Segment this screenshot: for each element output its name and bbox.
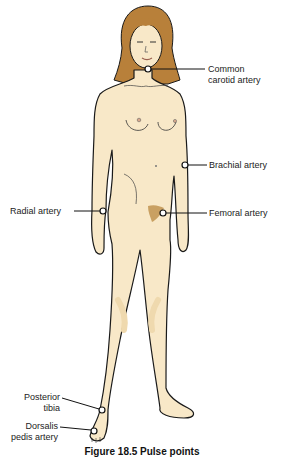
label-line: tibia — [14, 403, 60, 414]
label-line: Brachial artery — [209, 160, 267, 171]
figure-caption: Figure 18.5 Pulse points — [0, 446, 284, 457]
label-line: pedis artery — [2, 432, 58, 443]
label-posterior-tibia: Posterior tibia — [14, 392, 60, 414]
label-radial: Radial artery — [10, 206, 61, 217]
navel — [155, 165, 157, 167]
nipple-left — [137, 118, 141, 122]
body-torso — [90, 70, 194, 441]
label-femoral: Femoral artery — [209, 208, 268, 219]
label-line: Common — [208, 64, 261, 75]
label-line: carotid artery — [208, 75, 261, 86]
label-line: Dorsalis — [2, 421, 58, 432]
label-brachial: Brachial artery — [209, 160, 267, 171]
label-line: Femoral artery — [209, 208, 268, 219]
label-line: Radial artery — [10, 206, 61, 217]
pulse-posterior-tibia — [62, 398, 105, 413]
pulse-dorsalis-pedis — [60, 427, 97, 434]
label-dorsalis-pedis: Dorsalis pedis artery — [2, 421, 58, 443]
label-common-carotid: Common carotid artery — [208, 64, 261, 86]
nipple-right — [173, 119, 176, 122]
pulse-brachial — [182, 162, 207, 168]
pulse-radial — [74, 208, 106, 214]
label-line: Posterior — [14, 392, 60, 403]
